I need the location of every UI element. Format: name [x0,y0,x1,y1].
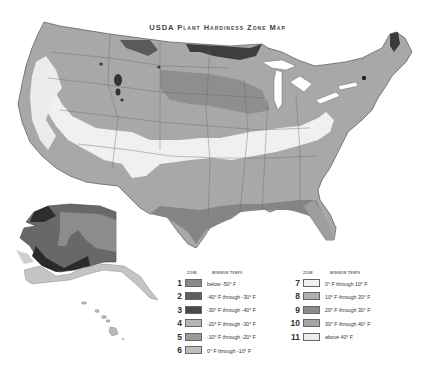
alaska-inset [16,204,158,300]
legend-temp-label: 30° F through 40° F [325,321,370,327]
legend-zone-number: 6 [170,345,182,355]
legend-temp-label: -20° F through -30° F [207,321,256,327]
legend-temp-label: 10° F through 20° F [325,294,370,300]
legend-zone-number: 11 [288,332,300,342]
legend-swatch [303,319,320,327]
legend-temp-label: -10° F through -20° F [207,334,256,340]
legend-zone-number: 4 [170,318,182,328]
legend-temp-label: 0° F through -10° F [207,348,251,354]
legend-swatch [185,306,202,314]
legend-temp-label: -30° F through -40° F [207,307,256,313]
legend-zone-number: 1 [170,278,182,288]
legend-zone-number: 8 [288,291,300,301]
legend-swatch [303,292,320,300]
legend-swatch [303,279,320,287]
hardiness-zone-map [0,0,435,371]
hawaii-inset [82,302,124,340]
legend-temp-header-left: Minimum Temps [212,270,242,275]
legend-zone-header-left: Zone [187,270,197,275]
legend-temp-label: above 40° F [325,334,353,340]
legend-temp-label: below -50° F [207,281,236,287]
legend-temp-label: -40° F through -30° F [207,294,256,300]
legend-swatch [185,292,202,300]
map-title: USDA Plant Hardiness Zone Map [0,23,435,32]
legend-swatch [303,306,320,314]
legend-swatch [185,346,202,354]
legend-zone-number: 3 [170,305,182,315]
legend-zone-number: 7 [288,278,300,288]
legend-swatch [185,279,202,287]
legend-swatch [185,319,202,327]
legend-zone-number: 2 [170,291,182,301]
legend-zone-number: 9 [288,305,300,315]
legend-temp-label: 0° F through 10° F [325,281,368,287]
legend-zone-number: 5 [170,332,182,342]
legend-zone-number: 10 [288,318,300,328]
legend-swatch [303,333,320,341]
legend-temp-label: 20° F through 30° F [325,307,370,313]
legend-zone-header-right: Zone [303,270,313,275]
legend-swatch [185,333,202,341]
legend-temp-header-right: Minimum Temps [330,270,360,275]
